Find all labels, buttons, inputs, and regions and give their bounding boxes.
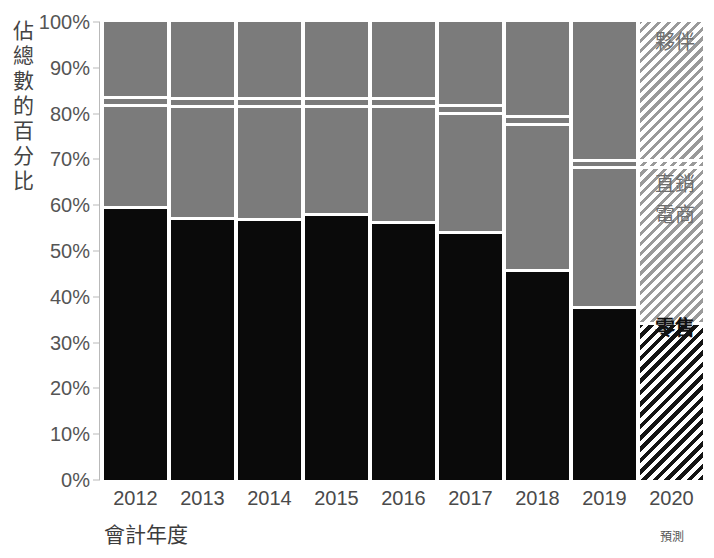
bar-segment-2013-retail	[171, 220, 234, 480]
bar-segment-2016-ecommerce	[372, 108, 435, 221]
bar-segment-2012-retail	[104, 209, 167, 480]
bar-segment-2014-retail	[238, 221, 301, 480]
legend-item-1: 直銷	[655, 168, 695, 197]
bar-segment-2015-ecommerce	[305, 108, 368, 213]
bar-segment-2019-direct	[573, 162, 636, 166]
stacked-bar-chart: 佔總數的百分比 100%90%80%70%60%50%40%30%20%10%0…	[0, 0, 714, 558]
bar-segment-2018-ecommerce	[506, 126, 569, 270]
x-tick-label-2015: 2015	[305, 487, 368, 510]
bar-segment-2016-partner	[372, 22, 435, 97]
y-tick-label-100: 100%	[28, 11, 90, 34]
bar-segment-2014-ecommerce	[238, 108, 301, 218]
y-tick-mark-100	[93, 22, 100, 23]
bar-segment-2013-ecommerce	[171, 108, 234, 217]
bar-segment-2014-partner	[238, 22, 301, 97]
x-tick-label-2012: 2012	[104, 487, 167, 510]
y-tick-mark-50	[93, 251, 100, 252]
bar-segment-2018-partner	[506, 22, 569, 115]
bar-segment-2020-direct	[640, 162, 703, 166]
bar-2016	[372, 22, 435, 480]
y-axis-tick-labels: 100%90%80%70%60%50%40%30%20%10%0%	[28, 0, 90, 558]
bar-segment-2018-direct	[506, 118, 569, 123]
y-tick-label-10: 10%	[28, 423, 90, 446]
bar-segment-2013-partner	[171, 22, 234, 97]
y-tick-label-0: 0%	[28, 469, 90, 492]
x-tick-label-2019: 2019	[573, 487, 636, 510]
bar-segment-2019-retail	[573, 309, 636, 480]
x-axis-title: 會計年度	[104, 518, 188, 548]
bar-segment-2017-retail	[439, 234, 502, 480]
bar-segment-2017-partner	[439, 22, 502, 104]
bar-2015	[305, 22, 368, 480]
bar-segment-2018-retail	[506, 272, 569, 480]
y-tick-mark-10	[93, 434, 100, 435]
y-tick-label-20: 20%	[28, 377, 90, 400]
y-tick-mark-70	[93, 159, 100, 160]
bar-segment-2016-direct	[372, 100, 435, 106]
x-tick-label-2017: 2017	[439, 487, 502, 510]
y-tick-mark-20	[93, 388, 100, 389]
bar-segment-2019-ecommerce	[573, 169, 636, 306]
bar-segment-2019-partner	[573, 22, 636, 159]
y-tick-label-80: 80%	[28, 102, 90, 125]
x-tick-label-2014: 2014	[238, 487, 301, 510]
bar-segment-2015-partner	[305, 22, 368, 97]
bar-segment-2015-retail	[305, 216, 368, 480]
bar-segment-2012-partner	[104, 22, 167, 96]
x-tick-label-2013: 2013	[171, 487, 234, 510]
y-tick-mark-30	[93, 342, 100, 343]
y-tick-mark-90	[93, 67, 100, 68]
y-tick-label-60: 60%	[28, 194, 90, 217]
bar-2020	[640, 22, 703, 480]
bar-segment-2016-retail	[372, 224, 435, 480]
bar-segment-2020-retail	[640, 325, 703, 480]
legend-item-2: 電商	[655, 199, 695, 228]
y-tick-label-90: 90%	[28, 56, 90, 79]
bar-segment-2012-ecommerce	[104, 107, 167, 206]
bar-2017	[439, 22, 502, 480]
y-tick-label-30: 30%	[28, 331, 90, 354]
y-tick-mark-60	[93, 205, 100, 206]
plot-area	[104, 22, 707, 480]
bar-segment-2012-direct	[104, 99, 167, 104]
bar-2014	[238, 22, 301, 480]
bar-2018	[506, 22, 569, 480]
bar-2019	[573, 22, 636, 480]
bar-segment-2017-ecommerce	[439, 115, 502, 231]
y-tick-label-40: 40%	[28, 285, 90, 308]
bar-2013	[171, 22, 234, 480]
forecast-note: 預測	[660, 527, 684, 544]
y-tick-mark-40	[93, 296, 100, 297]
legend-item-3: 零售	[655, 312, 695, 341]
y-tick-label-70: 70%	[28, 148, 90, 171]
y-tick-mark-80	[93, 113, 100, 114]
x-tick-label-2020: 2020	[640, 487, 703, 510]
y-tick-label-50: 50%	[28, 240, 90, 263]
bar-segment-2015-direct	[305, 100, 368, 106]
x-tick-label-2018: 2018	[506, 487, 569, 510]
legend-item-0: 夥伴	[655, 26, 695, 55]
bar-segment-2014-direct	[238, 100, 301, 105]
bar-2012	[104, 22, 167, 480]
bar-segment-2017-direct	[439, 107, 502, 113]
x-tick-label-2016: 2016	[372, 487, 435, 510]
bar-segment-2013-direct	[171, 100, 234, 105]
y-tick-mark-0	[93, 480, 100, 481]
